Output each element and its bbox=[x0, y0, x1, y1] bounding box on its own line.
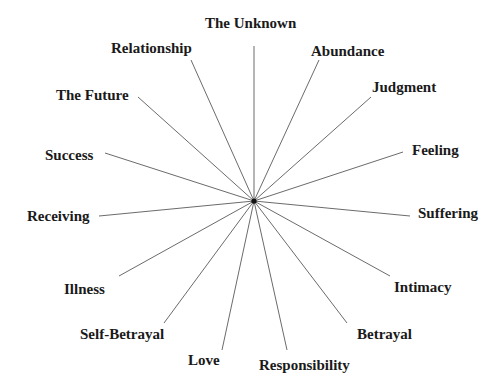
spoke-line bbox=[105, 153, 254, 201]
spoke-label: Self-Betrayal bbox=[80, 327, 164, 342]
spoke-line bbox=[254, 60, 319, 201]
spoke-line bbox=[191, 60, 254, 201]
spoke-label: Betrayal bbox=[357, 327, 412, 342]
spoke-label: The Unknown bbox=[205, 16, 296, 31]
spoke-label: Success bbox=[45, 148, 93, 163]
spoke-label: Abundance bbox=[311, 44, 384, 59]
spoke-label: Receiving bbox=[27, 209, 89, 224]
spoke-label: Judgment bbox=[372, 80, 436, 95]
spoke-label: Feeling bbox=[412, 143, 459, 158]
spoke-line bbox=[254, 152, 403, 201]
spoke-label: Relationship bbox=[111, 41, 192, 56]
spoke-lines bbox=[99, 46, 410, 350]
spoke-line bbox=[138, 97, 254, 201]
center-hub bbox=[251, 198, 256, 203]
spoke-label: Responsibility bbox=[259, 358, 350, 373]
radial-diagram bbox=[0, 0, 502, 389]
spoke-label: Love bbox=[188, 353, 220, 368]
spoke-label: Suffering bbox=[418, 206, 478, 221]
spoke-line bbox=[254, 97, 371, 201]
spoke-label: Intimacy bbox=[394, 280, 452, 295]
spoke-label: Illness bbox=[64, 282, 105, 297]
spoke-label: The Future bbox=[56, 88, 129, 103]
